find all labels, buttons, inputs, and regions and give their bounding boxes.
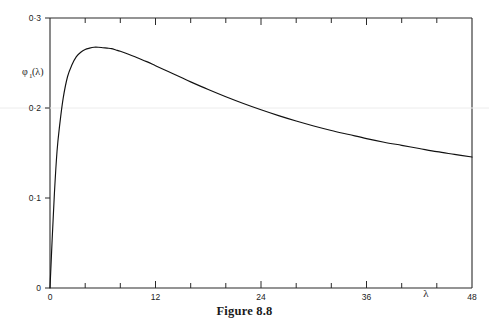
y-axis-label-arg: (λ)	[32, 66, 44, 78]
x-ticklabel-48: 48	[467, 292, 477, 302]
plot-area: 0 12 24 36 48 0 0·1 0·2 0·3 λ φ 1 (λ)	[0, 0, 489, 326]
x-ticklabel-0: 0	[48, 292, 53, 302]
data-curve-phi1	[50, 47, 472, 288]
y-ticklabel-0-2: 0·2	[29, 103, 42, 113]
x-ticklabel-36: 36	[362, 292, 372, 302]
figure-container: 0 12 24 36 48 0 0·1 0·2 0·3 λ φ 1 (λ) Fi…	[0, 0, 489, 326]
y-axis-label-phi: φ	[22, 66, 28, 77]
x-ticklabel-24: 24	[256, 292, 266, 302]
x-axis-label: λ	[423, 287, 429, 299]
x-ticklabel-12: 12	[151, 292, 161, 302]
y-axis-label: φ 1 (λ)	[22, 66, 44, 80]
y-ticklabel-0: 0	[36, 283, 41, 293]
figure-caption: Figure 8.8	[0, 304, 489, 319]
y-ticklabel-0-3: 0·3	[29, 13, 42, 23]
axes-frame	[50, 18, 472, 288]
y-ticklabel-0-1: 0·1	[29, 193, 42, 203]
y-ticks	[45, 18, 50, 288]
